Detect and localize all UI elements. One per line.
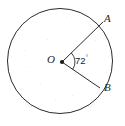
label-center-o: O	[47, 54, 55, 65]
label-point-a: A	[104, 13, 111, 24]
center-point-dot	[60, 60, 64, 64]
circle-outline	[8, 9, 113, 114]
angle-value-text: 72	[75, 55, 86, 66]
label-angle-measure: 72°	[75, 54, 88, 66]
label-point-b: B	[104, 82, 111, 93]
degree-symbol-icon: °	[86, 54, 89, 61]
geometry-figure: O A B 72°	[0, 0, 125, 126]
